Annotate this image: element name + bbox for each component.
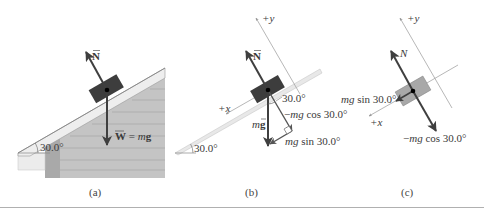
normal-label-c: N — [399, 47, 408, 59]
x-axis-label-c: +x — [370, 116, 382, 128]
angle-label-b: 30.0° — [194, 142, 218, 154]
caption-a: (a) — [89, 186, 102, 199]
y-axis-label-b: +y — [262, 12, 274, 24]
inner-angle-label-b: 30.0° — [282, 92, 306, 104]
normal-label-a: N — [92, 50, 100, 62]
cos-component-label-b: −mg cos 30.0° — [284, 108, 347, 120]
panel-b: 30.0° +y +x N mg 30.0° −mg cos 30.0° mg … — [175, 12, 347, 199]
x-axis-label-b: +x — [218, 102, 230, 114]
panel-c: +y +x N mg sin 30.0° −mg cos 30.0° (c) — [341, 12, 466, 199]
caption-c: (c) — [401, 186, 414, 199]
cos-component-arrow-c — [413, 91, 436, 131]
y-axis-label-c: +y — [407, 12, 419, 24]
gravity-label-b: mg — [252, 118, 266, 130]
cos-component-label-c: −mg cos 30.0° — [403, 132, 466, 144]
caption-b: (b) — [245, 186, 258, 199]
panel-a: 30.0° N W = mg (a) — [18, 50, 165, 199]
sin-component-label-c: mg sin 30.0° — [341, 93, 396, 105]
normal-label-b: N — [253, 50, 261, 62]
angle-label-a: 30.0° — [40, 141, 64, 153]
weight-label-a: W = mg — [115, 130, 152, 142]
sin-component-label-b: mg sin 30.0° — [285, 135, 340, 147]
inclined-plane-figure: 30.0° N W = mg (a) 30.0° +y +x — [0, 0, 484, 211]
